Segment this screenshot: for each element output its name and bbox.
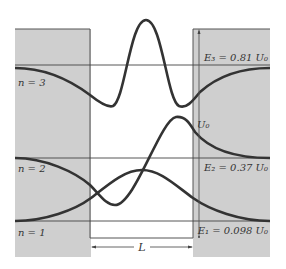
u0-arrow-tail bbox=[198, 236, 200, 238]
label-e1: E₁ = 0.098 U₀ bbox=[197, 225, 268, 236]
label-n1: n = 1 bbox=[18, 227, 46, 238]
label-u0: U₀ bbox=[197, 119, 209, 130]
left-barrier bbox=[15, 29, 91, 257]
label-e2: E₂ = 0.37 U₀ bbox=[203, 162, 268, 173]
l-arrowhead-right bbox=[188, 246, 193, 249]
right-barrier bbox=[193, 29, 270, 257]
label-n3: n = 3 bbox=[18, 77, 46, 88]
finite-well-diagram: n = 3 n = 2 n = 1 E₃ = 0.81 U₀ E₂ = 0.37… bbox=[0, 0, 286, 269]
label-n2: n = 2 bbox=[18, 163, 46, 174]
label-e3: E₃ = 0.81 U₀ bbox=[203, 52, 268, 63]
label-l: L bbox=[137, 241, 145, 254]
well-interior bbox=[91, 29, 193, 238]
l-arrowhead-left bbox=[91, 246, 96, 249]
